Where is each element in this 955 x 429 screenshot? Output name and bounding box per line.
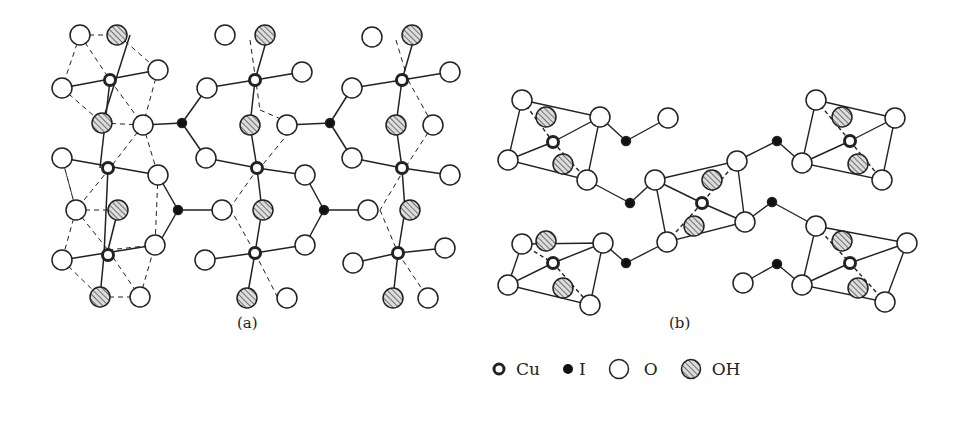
panel-b-atoms (498, 90, 917, 315)
panel-a-caption: (a) (237, 314, 258, 332)
legend-item-oh: OH (680, 358, 741, 380)
legend: Cu I O OH (492, 358, 762, 380)
oh-group-icon (680, 358, 702, 380)
o-atom-icon (608, 358, 630, 380)
crystal-structure-diagram (0, 0, 955, 429)
legend-item-cu: Cu (492, 359, 540, 379)
i-atom-icon (562, 363, 574, 375)
legend-label: Cu (516, 359, 540, 379)
legend-label: I (579, 359, 586, 379)
legend-item-i: I (562, 359, 586, 379)
panel-a-atoms (52, 25, 460, 308)
legend-item-o: O (608, 358, 658, 380)
cu-atom-icon (492, 362, 506, 376)
legend-label: OH (712, 359, 741, 379)
panel-b-caption: (b) (669, 314, 690, 332)
legend-label: O (644, 359, 658, 379)
